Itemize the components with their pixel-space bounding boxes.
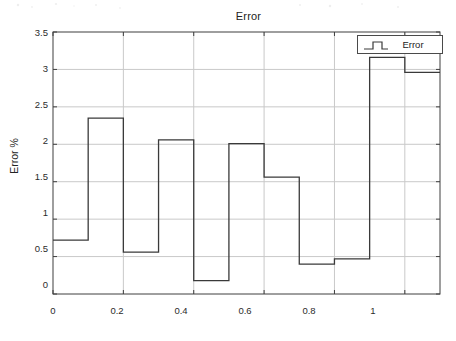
figure-canvas: Error Error % 3.5 3 2.5 2 1.5 1 0.5 0 0 … [0, 0, 456, 341]
legend[interactable]: Error [357, 35, 443, 54]
legend-item-label: Error [390, 39, 438, 50]
horizontal-gridlines [53, 69, 440, 256]
axes-frame [53, 32, 440, 294]
step-line-icon [362, 38, 390, 52]
tick-marks [53, 32, 440, 294]
series-error-stairs [53, 57, 440, 280]
